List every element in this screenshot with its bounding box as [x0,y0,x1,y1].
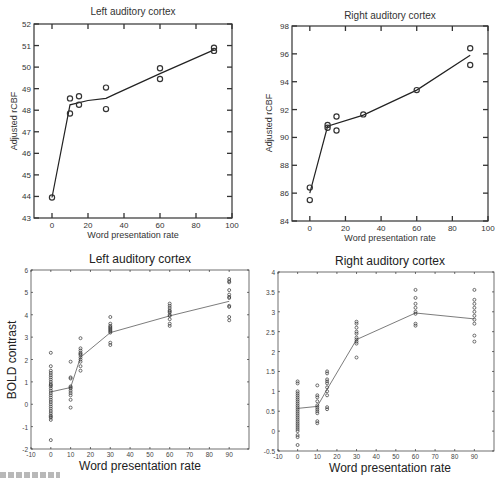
data-point [296,444,299,447]
data-point [355,356,358,359]
data-point [228,316,231,319]
data-point [69,394,72,397]
data-point [316,412,319,415]
data-point [49,418,52,421]
data-point [473,322,476,325]
x-axis-label: Word presentation rate [344,233,435,243]
x-tick-label: 20 [333,453,341,460]
y-tick-label: 43 [22,214,31,223]
y-tick-label: 5 [24,289,28,296]
data-point [355,322,358,325]
figure-caption-fragment [0,472,60,478]
x-tick-label: 20 [87,451,95,458]
y-tick-label: 48 [22,106,31,115]
data-point [157,76,162,81]
y-tick-label: 2 [271,349,275,356]
data-point [157,66,162,71]
y-tick-label: 88 [280,161,289,170]
y-tick-label: 1 [24,379,28,386]
x-tick-label: 20 [84,221,93,230]
x-tick-label: 90 [471,453,479,460]
x-tick-label: 80 [448,224,457,233]
x-tick-label: 90 [226,451,234,458]
y-tick-label: 96 [280,50,289,59]
y-tick-label: 3 [24,334,28,341]
y-tick-label: 49 [22,85,31,94]
fit-line [310,55,470,193]
data-point [49,439,52,442]
data-point [334,114,339,119]
data-point [316,422,319,425]
y-tick-label: 4 [271,269,275,276]
data-point [49,365,52,368]
data-point [76,94,81,99]
data-point [307,198,312,203]
y-tick-label: 0.5 [266,408,275,415]
y-tick-label: 6 [24,267,28,274]
data-point [109,316,112,319]
data-point [296,436,299,439]
data-point [79,365,82,368]
y-tick-label: 1.5 [266,368,275,375]
fit-line [298,313,475,408]
y-tick-label: 86 [280,189,289,198]
x-tick-label: 10 [67,451,75,458]
fit-line [52,50,214,198]
y-tick-label: 3 [271,309,275,316]
x-tick-label: 40 [373,453,381,460]
y-tick-label: 98 [280,22,289,31]
data-point [228,289,231,292]
figure-canvas: Left auditory cortex Word presentation r… [0,0,504,482]
y-tick-label: 84 [280,217,289,226]
x-axis-label: Word presentation rate [329,461,451,475]
y-tick-label: 92 [280,106,289,115]
x-tick-label: 40 [120,221,129,230]
data-point [473,298,476,301]
y-axis-label: Adjusted rCBF [264,93,274,152]
x-tick-label: 50 [392,453,400,460]
plot-frame [292,26,488,221]
data-point [414,288,417,291]
data-point [473,334,476,337]
data-point [414,306,417,309]
data-point [355,342,358,345]
x-tick-label: 70 [186,451,194,458]
x-axis-label: Word presentation rate [79,459,201,473]
x-tick-label: 30 [107,451,115,458]
data-point [228,319,231,322]
x-tick-label: 80 [451,453,459,460]
y-tick-label: -2 [22,446,28,453]
x-tick-label: 60 [412,453,420,460]
data-point [316,396,319,399]
y-tick-label: 1 [271,388,275,395]
y-tick-label: 0 [24,401,28,408]
data-point [326,372,329,375]
x-tick-label: 40 [377,224,386,233]
y-tick-label: -1 [22,424,28,431]
data-point [473,288,476,291]
y-tick-label: 94 [280,78,289,87]
x-tick-label: 10 [314,453,322,460]
data-point [326,382,329,385]
x-tick-label: 40 [126,451,134,458]
y-tick-label: 90 [280,133,289,142]
data-point [296,430,299,433]
data-point [473,306,476,309]
y-tick-label: 0 [271,428,275,435]
y-tick-label: 52 [22,20,31,29]
x-tick-label: 80 [192,221,201,230]
data-point [296,382,299,385]
data-point [473,302,476,305]
data-point [316,384,319,387]
y-tick-label: 46 [22,149,31,158]
y-axis-label: BOLD contrast [5,320,19,399]
x-axis-label: Word presentation rate [87,230,178,240]
y-tick-label: 50 [22,63,31,72]
data-point [49,351,52,354]
y-tick-label: 44 [22,192,31,201]
chart-title: Left auditory cortex [89,252,191,266]
x-tick-label: 0 [308,224,313,233]
x-tick-label: 100 [225,221,239,230]
y-tick-label: -0.5 [264,448,276,455]
chart-left-auditory-rcbf: Left auditory cortex Word presentation r… [9,6,239,240]
